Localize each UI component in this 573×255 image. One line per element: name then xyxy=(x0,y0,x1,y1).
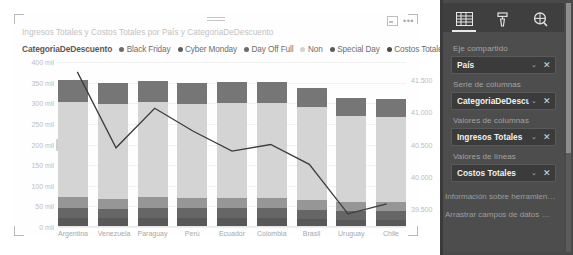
legend-title: CategoriaDeDescuento xyxy=(22,44,112,54)
bar-segment[interactable] xyxy=(138,197,168,208)
bar-column[interactable] xyxy=(177,62,207,227)
bar-column[interactable] xyxy=(297,62,327,227)
bar-segment[interactable] xyxy=(138,102,168,197)
bar-segment[interactable] xyxy=(376,211,406,219)
legend-item-black-friday[interactable]: Black Friday xyxy=(119,45,170,54)
y-axis-right-tick: 41.500 xyxy=(411,77,432,84)
bar-column[interactable] xyxy=(376,62,406,227)
bar-segment[interactable] xyxy=(257,198,287,208)
fields-grid-icon xyxy=(456,12,473,26)
close-icon[interactable]: ✕ xyxy=(543,97,551,106)
bar-column[interactable] xyxy=(336,62,366,227)
bar-segment[interactable] xyxy=(58,197,88,208)
y-axis-right-tick: 41.000 xyxy=(411,109,432,116)
bar-segment[interactable] xyxy=(58,102,88,198)
combo-chart-visual[interactable]: ••• Ingresos Totales y Costos Totales po… xyxy=(14,14,418,236)
x-axis-label: Ecuador xyxy=(217,230,247,237)
legend-item-cyber-monday[interactable]: Cyber Monday xyxy=(178,45,238,54)
close-icon[interactable]: ✕ xyxy=(543,61,551,70)
chevron-down-icon[interactable]: ⌄ xyxy=(531,97,537,105)
analytics-tab[interactable] xyxy=(529,10,551,28)
bar-column[interactable] xyxy=(217,62,247,227)
bar-segment[interactable] xyxy=(376,99,406,117)
field-well-label: Valores de líneas xyxy=(453,152,556,161)
paint-roller-icon xyxy=(495,12,510,27)
legend-label: Cyber Monday xyxy=(185,45,237,54)
chevron-down-icon[interactable]: ⌄ xyxy=(531,133,537,141)
bar-segment[interactable] xyxy=(217,198,247,209)
legend-swatch-icon xyxy=(300,47,305,52)
close-icon[interactable]: ✕ xyxy=(543,169,551,178)
bar-segment[interactable] xyxy=(177,198,207,208)
tooltip-well-label[interactable]: Información sobre herramien… xyxy=(445,192,564,201)
x-axis-label: Uruguay xyxy=(336,230,366,237)
bar-segment[interactable] xyxy=(336,98,366,116)
legend-swatch-icon xyxy=(178,47,183,52)
chevron-down-icon[interactable]: ⌄ xyxy=(531,61,537,69)
legend-label: Special Day xyxy=(337,45,380,54)
bar-segment[interactable] xyxy=(376,117,406,202)
y-axis-left-tick: 300 mil xyxy=(31,100,54,107)
bar-segment[interactable] xyxy=(177,104,207,198)
bar-segment[interactable] xyxy=(336,116,366,203)
bar-segment[interactable] xyxy=(58,80,88,101)
bar-segment[interactable] xyxy=(98,104,128,199)
bar-segment[interactable] xyxy=(297,88,327,108)
bar-segment[interactable] xyxy=(336,211,366,219)
field-chip-3[interactable]: Costos Totales⌄✕ xyxy=(451,164,556,182)
bar-segment[interactable] xyxy=(297,200,327,210)
bar-segment[interactable] xyxy=(138,81,168,102)
format-tab[interactable] xyxy=(491,10,513,28)
bar-segment[interactable] xyxy=(98,209,128,218)
bar-column[interactable] xyxy=(58,62,88,227)
legend-swatch-icon xyxy=(387,47,392,52)
y-axis-right-tick: 40.000 xyxy=(411,173,432,180)
focus-mode-icon[interactable] xyxy=(387,16,398,26)
bar-segment[interactable] xyxy=(297,210,327,219)
bar-segment[interactable] xyxy=(257,103,287,198)
field-chip-2[interactable]: Ingresos Totales⌄✕ xyxy=(451,128,556,146)
bar-column[interactable] xyxy=(257,62,287,227)
bar-segment[interactable] xyxy=(58,208,88,218)
report-canvas: ••• Ingresos Totales y Costos Totales po… xyxy=(0,0,440,255)
legend-item-day-off-full[interactable]: Day Off Full xyxy=(244,45,293,54)
bar-column[interactable] xyxy=(138,62,168,227)
x-axis-label: Colombia xyxy=(257,230,287,237)
gridline xyxy=(58,227,406,228)
field-chip-0[interactable]: País⌄✕ xyxy=(451,56,556,74)
fields-tab[interactable] xyxy=(453,10,475,28)
chevron-down-icon[interactable]: ⌄ xyxy=(531,169,537,177)
bar-segment[interactable] xyxy=(177,208,207,217)
bar-segment[interactable] xyxy=(217,208,247,218)
more-options-icon[interactable]: ••• xyxy=(403,17,414,25)
field-well-label: Eje compartido xyxy=(453,44,556,53)
y-axis-left-tick: 200 mil xyxy=(31,141,54,148)
legend-item-non[interactable]: Non xyxy=(300,45,322,54)
legend-swatch-icon xyxy=(119,47,124,52)
bar-segment[interactable] xyxy=(98,199,128,209)
bar-segment[interactable] xyxy=(376,202,406,211)
legend-item-special-day[interactable]: Special Day xyxy=(330,45,380,54)
bar-segment[interactable] xyxy=(217,82,247,103)
y-axis-left-tick: 250 mil xyxy=(31,120,54,127)
bar-segment[interactable] xyxy=(98,83,128,104)
drag-handle-icon[interactable] xyxy=(207,15,225,23)
visualizations-pane: Eje compartidoPaís⌄✕Serie de columnasCat… xyxy=(440,0,573,255)
close-icon[interactable]: ✕ xyxy=(543,133,551,142)
plot-area[interactable]: 400 mil350 mil300 mil250 mil200 mil150 m… xyxy=(58,62,406,227)
bar-segment[interactable] xyxy=(138,208,168,218)
bar-segment[interactable] xyxy=(217,103,247,198)
bar-segment[interactable] xyxy=(257,82,287,103)
bar-series-group xyxy=(58,62,406,227)
bar-segment[interactable] xyxy=(257,208,287,217)
bar-segment[interactable] xyxy=(336,202,366,211)
visual-corner-top-left xyxy=(14,14,24,24)
visual-corner-bottom-right xyxy=(408,226,418,236)
legend-item-costos-totales[interactable]: Costos Totales xyxy=(387,45,447,54)
pane-scrollbar[interactable] xyxy=(566,3,571,252)
bar-segment[interactable] xyxy=(177,83,207,104)
field-chip-1[interactable]: CategoriaDeDescuento⌄✕ xyxy=(451,92,556,110)
bar-segment[interactable] xyxy=(297,107,327,199)
visual-title: Ingresos Totales y Costos Totales por Pa… xyxy=(22,28,273,37)
bar-column[interactable] xyxy=(98,62,128,227)
